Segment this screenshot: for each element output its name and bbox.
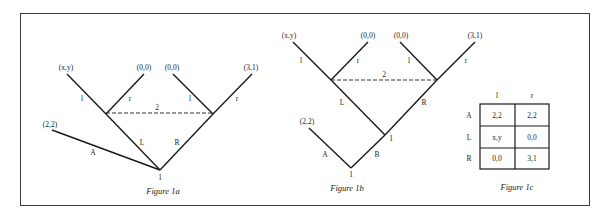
edge-label-left-r: r bbox=[357, 56, 360, 65]
edge-label-R: R bbox=[421, 98, 426, 107]
column-header: r bbox=[531, 91, 534, 100]
figure-1a-caption: Figure 1a bbox=[145, 186, 179, 196]
payoff-a: (2,2) bbox=[300, 117, 315, 126]
edge-right-r bbox=[437, 42, 475, 80]
game-tree-diagrams: (x,y) (0,0) (0,0) (3,1) (2,2) l r l r 2 … bbox=[0, 0, 616, 220]
edge-label-left-l: l bbox=[300, 56, 302, 65]
edge-A bbox=[52, 130, 160, 170]
figure-1c-payoff-matrix: l r A L R 2,2 2,2 x,y 0,0 0,0 3,1 Figure… bbox=[466, 91, 549, 192]
edge-right-l bbox=[173, 74, 213, 114]
edge-label-R: R bbox=[174, 138, 179, 147]
edge-label-right-r: r bbox=[465, 56, 468, 65]
edge-label-right-r: r bbox=[236, 94, 239, 103]
row-label: A bbox=[466, 111, 472, 120]
column-header: l bbox=[496, 91, 498, 100]
edge-left-l bbox=[293, 42, 331, 80]
edge-right-r bbox=[213, 74, 252, 114]
matrix-cell: 2,2 bbox=[492, 111, 502, 120]
edge-label-left-l: l bbox=[81, 94, 83, 103]
edge-label-right-l: l bbox=[189, 94, 191, 103]
root-player-label: 1 bbox=[158, 173, 162, 182]
matrix-cell: 0,0 bbox=[492, 154, 502, 163]
figure-1b: (x,y) (0,0) (0,0) (3,1) (2,2) l r l r 2 … bbox=[282, 31, 483, 193]
edge-R bbox=[160, 114, 213, 170]
edge-label-A: A bbox=[322, 150, 328, 159]
edge-L bbox=[331, 80, 385, 135]
edge-right-l bbox=[400, 42, 437, 80]
edge-L bbox=[106, 114, 160, 170]
info-set-label: 2 bbox=[155, 103, 159, 112]
payoff-a: (2,2) bbox=[43, 120, 58, 129]
payoff-rr: (3,1) bbox=[244, 63, 259, 72]
info-set-label: 2 bbox=[382, 70, 386, 79]
payoff-ll: (x,y) bbox=[59, 63, 74, 72]
edge-left-l bbox=[67, 74, 106, 114]
matrix-cell: x,y bbox=[492, 133, 502, 142]
edge-left-r bbox=[331, 42, 368, 80]
matrix-cell: 0,0 bbox=[527, 133, 537, 142]
edge-label-left-r: r bbox=[129, 94, 132, 103]
matrix-cell: 2,2 bbox=[527, 111, 537, 120]
edge-A bbox=[309, 128, 351, 168]
matrix-cell: 3,1 bbox=[527, 154, 537, 163]
mid-player-label: 1 bbox=[389, 134, 393, 143]
payoff-lr: (0,0) bbox=[137, 63, 152, 72]
root-player-label: 1 bbox=[349, 170, 353, 179]
payoff-rl: (0,0) bbox=[394, 31, 409, 40]
edge-left-r bbox=[106, 74, 144, 114]
row-label: L bbox=[467, 133, 472, 142]
payoff-rl: (0,0) bbox=[165, 63, 180, 72]
payoff-lr: (0,0) bbox=[361, 31, 376, 40]
edge-B bbox=[351, 135, 385, 168]
edge-label-L: L bbox=[340, 98, 345, 107]
figure-1c-caption: Figure 1c bbox=[500, 182, 534, 192]
edge-label-A: A bbox=[90, 148, 96, 157]
figure-1a: (x,y) (0,0) (0,0) (3,1) (2,2) l r l r 2 … bbox=[43, 63, 259, 196]
payoff-rr: (3,1) bbox=[468, 31, 483, 40]
edge-label-B: B bbox=[374, 150, 379, 159]
payoff-ll: (x,y) bbox=[282, 31, 297, 40]
edge-label-right-l: l bbox=[408, 56, 410, 65]
edge-R bbox=[385, 80, 437, 135]
edge-label-L: L bbox=[140, 138, 145, 147]
figure-1b-caption: Figure 1b bbox=[329, 183, 363, 193]
row-label: R bbox=[466, 154, 471, 163]
